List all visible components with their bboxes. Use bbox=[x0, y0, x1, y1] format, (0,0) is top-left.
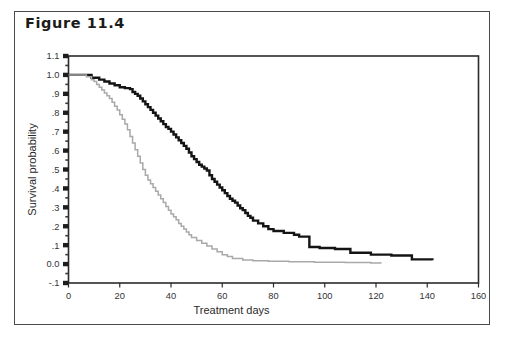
y-axis-tick-label: .8 bbox=[52, 108, 60, 118]
y-axis-title: Survival probability bbox=[26, 123, 38, 216]
y-axis-tick bbox=[63, 148, 69, 152]
survival-plot: 1.11.0.9.8.7.6.5.4.3.2.10.0-.10204060801… bbox=[0, 0, 505, 341]
y-axis-minor-tick bbox=[65, 140, 68, 142]
y-axis-tick bbox=[63, 54, 69, 58]
survival-curve-group-black bbox=[69, 75, 433, 260]
y-axis-minor-tick bbox=[65, 121, 68, 123]
y-axis-tick bbox=[63, 224, 69, 228]
y-axis-tick bbox=[63, 281, 69, 285]
y-axis-minor-tick bbox=[65, 102, 68, 104]
x-axis-tick-label: 120 bbox=[368, 291, 384, 301]
x-axis-title: Treatment days bbox=[193, 304, 270, 316]
x-axis-tick-label: 100 bbox=[317, 291, 333, 301]
y-axis-tick-label: -.1 bbox=[49, 278, 60, 288]
y-axis-tick-label: .4 bbox=[52, 184, 60, 194]
y-axis-tick-label: 0.0 bbox=[47, 259, 60, 269]
y-axis-tick-label: .1 bbox=[52, 241, 60, 251]
x-axis-tick-label: 80 bbox=[268, 291, 278, 301]
x-axis-tick-label: 20 bbox=[115, 291, 125, 301]
figure-root: Figure 11.4 1.11.0.9.8.7.6.5.4.3.2.10.0-… bbox=[0, 0, 505, 341]
y-axis-tick-label: 1.1 bbox=[47, 51, 60, 61]
y-axis-tick bbox=[63, 73, 69, 77]
y-axis-tick bbox=[63, 205, 69, 209]
y-axis-minor-tick bbox=[65, 197, 68, 199]
y-axis-tick bbox=[63, 129, 69, 133]
y-axis-tick-label: .5 bbox=[52, 165, 60, 175]
y-axis-tick bbox=[63, 186, 69, 190]
y-axis-minor-tick bbox=[65, 178, 68, 180]
y-axis-tick-label: 1.0 bbox=[47, 70, 60, 80]
y-axis-tick-label: .2 bbox=[52, 222, 60, 232]
y-axis-tick-label: .7 bbox=[52, 127, 60, 137]
x-axis-tick-label: 0 bbox=[66, 291, 71, 301]
y-axis-minor-tick bbox=[65, 159, 68, 161]
y-axis-minor-tick bbox=[65, 84, 68, 86]
x-axis-tick-label: 140 bbox=[419, 291, 435, 301]
x-axis-tick-label: 60 bbox=[217, 291, 227, 301]
x-axis-tick-label: 160 bbox=[471, 291, 487, 301]
y-axis-tick-label: .9 bbox=[52, 89, 60, 99]
x-axis-tick-label: 40 bbox=[166, 291, 176, 301]
y-axis-tick-label: .6 bbox=[52, 146, 60, 156]
y-axis-tick bbox=[63, 243, 69, 247]
y-axis-minor-tick bbox=[65, 235, 68, 237]
y-axis-tick bbox=[63, 167, 69, 171]
y-axis-minor-tick bbox=[65, 216, 68, 218]
y-axis-minor-tick bbox=[65, 254, 68, 256]
y-axis-tick bbox=[63, 111, 69, 115]
y-axis-minor-tick bbox=[65, 65, 68, 67]
y-axis-minor-tick bbox=[65, 273, 68, 275]
y-axis-tick-label: .3 bbox=[52, 203, 60, 213]
survival-curve-group-gray bbox=[69, 75, 382, 263]
y-axis-tick bbox=[63, 92, 69, 96]
y-axis-tick bbox=[63, 262, 69, 266]
